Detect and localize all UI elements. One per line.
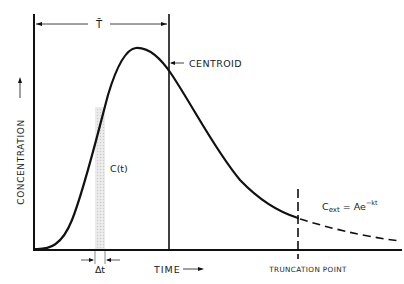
y-axis-label: CONCENTRATION — [16, 119, 26, 204]
eq-exp: −kt — [366, 199, 378, 207]
centroid-pointer — [170, 61, 184, 65]
y-axis-arrow-icon — [18, 77, 22, 98]
concentration-time-diagram: T̄ CENTROID C(t) Δt TIME CONCENTRATION T… — [0, 0, 404, 284]
centroid-label: CENTROID — [189, 58, 242, 69]
concentration-curve — [34, 48, 298, 249]
extrapolation-curve — [300, 219, 400, 241]
truncation-label: TRUNCATION POINT — [268, 265, 347, 274]
svg-text:Cext = Ae−kt: Cext = Ae−kt — [322, 199, 378, 214]
mean-time-label: T̄ — [95, 18, 103, 30]
eq-body: = Ae — [340, 201, 366, 212]
extrapolation-equation: Cext = Ae−kt — [322, 199, 378, 214]
eq-sub: ext — [329, 206, 340, 214]
curve-label: C(t) — [110, 163, 128, 174]
x-axis-label: TIME — [153, 264, 181, 275]
x-axis-arrow-icon — [183, 267, 204, 271]
delta-t-markers — [81, 251, 120, 264]
delta-t-label: Δt — [95, 264, 105, 275]
